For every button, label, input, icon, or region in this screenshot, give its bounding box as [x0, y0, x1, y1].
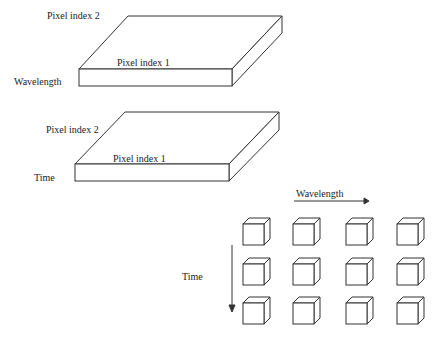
cube-icon	[243, 297, 270, 324]
bottom-slab-pixel-index-1-label: Pixel index 1	[113, 154, 166, 164]
top-slab-wavelength-label: Wavelength	[14, 77, 62, 87]
bottom-slab-time-label: Time	[34, 173, 55, 183]
cube-icon	[243, 218, 270, 245]
bottom-data-cube-slab	[75, 112, 279, 181]
top-slab-pixel-index-1-label: Pixel index 1	[117, 58, 170, 68]
cube-icon	[293, 297, 320, 324]
cube-icon	[397, 218, 424, 245]
cube-icon	[243, 258, 270, 285]
cube-icon	[346, 258, 373, 285]
cube-icon	[346, 297, 373, 324]
top-data-cube-slab	[79, 16, 282, 86]
diagram-canvas	[0, 0, 442, 339]
cube-icon	[397, 258, 424, 285]
time-arrow-icon	[229, 245, 235, 312]
cube-icon	[293, 218, 320, 245]
cube-icon	[397, 297, 424, 324]
bottom-slab-pixel-index-2-label: Pixel index 2	[46, 125, 99, 135]
cube-grid	[243, 218, 424, 324]
grid-time-label: Time	[182, 272, 203, 282]
top-slab-pixel-index-2-label: Pixel index 2	[47, 11, 100, 21]
cube-icon	[346, 218, 373, 245]
grid-wavelength-label: Wavelength	[296, 189, 344, 199]
cube-icon	[293, 258, 320, 285]
